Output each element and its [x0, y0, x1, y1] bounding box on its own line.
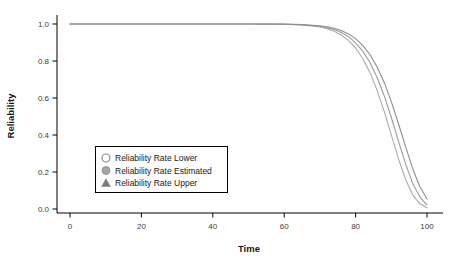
reliability-plot-figure: 020406080100 0.00.20.40.60.81.0 Time Rel…	[0, 0, 460, 268]
x-tick-label: 80	[351, 222, 360, 231]
y-tick-label: 1.0	[38, 20, 50, 29]
x-tick-label: 20	[137, 222, 146, 231]
y-tick-label: 0.0	[38, 205, 50, 214]
filled-circle-icon	[102, 167, 110, 175]
legend: Reliability Rate Lower Reliability Rate …	[96, 147, 228, 193]
legend-label-upper: Reliability Rate Upper	[115, 178, 197, 188]
legend-entry-upper: Reliability Rate Upper	[101, 178, 197, 188]
legend-entry-lower: Reliability Rate Lower	[102, 153, 197, 163]
x-axis-title: Time	[238, 243, 260, 254]
y-tick-label: 0.4	[38, 131, 50, 140]
x-tick-label: 40	[208, 222, 217, 231]
y-tick-label: 0.8	[38, 57, 50, 66]
y-tick-label: 0.2	[38, 168, 50, 177]
y-tick-label: 0.6	[38, 94, 50, 103]
legend-label-estimated: Reliability Rate Estimated	[115, 166, 212, 176]
reliability-chart: 020406080100 0.00.20.40.60.81.0 Time Rel…	[0, 0, 460, 268]
legend-label-lower: Reliability Rate Lower	[115, 153, 197, 163]
x-tick-label: 60	[280, 222, 289, 231]
legend-entry-estimated: Reliability Rate Estimated	[102, 166, 212, 176]
x-tick-label: 0	[68, 222, 73, 231]
y-axis-title: Reliability	[5, 93, 16, 139]
x-tick-label: 100	[420, 222, 434, 231]
